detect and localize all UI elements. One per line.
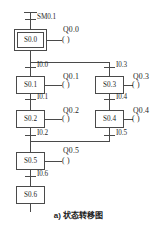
coil-symbol-q03: ( )	[132, 80, 140, 89]
state-label-s00: S0.0	[14, 36, 47, 44]
coil-label-q00: Q0.0	[63, 25, 79, 34]
transition-label-i02: I0.2	[37, 129, 48, 137]
state-transition-diagram: S0.0 S0.1 S0.2 S0.5 S0.6 S0.3 S0.4 SM0.1…	[0, 0, 157, 227]
state-label-s04: S0.4	[95, 115, 124, 123]
coil-symbol-q02: ( )	[62, 114, 70, 123]
figure-caption: a) 状态转移图	[0, 209, 157, 220]
state-label-s03: S0.3	[95, 81, 124, 89]
transition-label-i00: I0.0	[37, 61, 48, 69]
state-label-s02: S0.2	[16, 115, 45, 123]
state-label-s05: S0.5	[16, 157, 45, 165]
coil-label-q05: Q0.5	[63, 146, 79, 155]
transition-label-i06: I0.6	[37, 170, 48, 178]
coil-symbol-q04: ( )	[132, 114, 140, 123]
transition-label-i03: I0.3	[116, 61, 127, 69]
coil-symbol-q01: ( )	[62, 80, 70, 89]
state-label-s01: S0.1	[16, 81, 45, 89]
transition-label-i05: I0.5	[116, 129, 127, 137]
state-label-s06: S0.6	[16, 191, 45, 199]
coil-symbol-q00: ( )	[62, 35, 70, 44]
transition-label-i01: I0.1	[37, 93, 48, 101]
transition-label-sm01: SM0.1	[37, 13, 56, 21]
coil-symbol-q05: ( )	[62, 156, 70, 165]
transition-label-i04: I0.4	[116, 93, 127, 101]
